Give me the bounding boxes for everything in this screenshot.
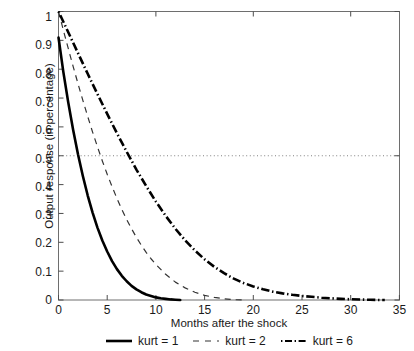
legend-label: kurt = 1 xyxy=(138,334,178,348)
x-tick-label: 0 xyxy=(39,303,79,317)
legend-swatch-solid-icon xyxy=(105,336,133,346)
chart-figure: Output response (in percentage) 1 0.9 0.… xyxy=(0,0,414,351)
x-tick-label: 10 xyxy=(136,303,176,317)
legend-label: kurt = 6 xyxy=(313,334,353,348)
legend-entry-kurt-6: kurt = 6 xyxy=(280,334,353,348)
chart-legend: kurt = 1 kurt = 2 kurt = 6 xyxy=(58,332,400,349)
legend-swatch-dashed-icon xyxy=(192,336,220,346)
y-tick-marks-right xyxy=(395,12,400,301)
x-tick-label: 15 xyxy=(185,303,225,317)
legend-entry-kurt-2: kurt = 2 xyxy=(192,334,265,348)
plot-area xyxy=(0,0,414,351)
x-tick-label: 35 xyxy=(379,303,414,317)
series-line-kurt-2 xyxy=(59,12,244,301)
x-tick-label: 30 xyxy=(331,303,371,317)
x-tick-label: 20 xyxy=(233,303,273,317)
x-tick-label: 5 xyxy=(87,303,127,317)
x-tick-marks-top xyxy=(156,12,351,17)
series-line-kurt-1 xyxy=(59,37,181,300)
legend-entry-kurt-1: kurt = 1 xyxy=(105,334,178,348)
x-tick-label: 25 xyxy=(282,303,322,317)
legend-label: kurt = 2 xyxy=(225,334,265,348)
x-axis-title: Months after the shock xyxy=(58,317,400,329)
legend-swatch-dashdot-icon xyxy=(280,336,308,346)
